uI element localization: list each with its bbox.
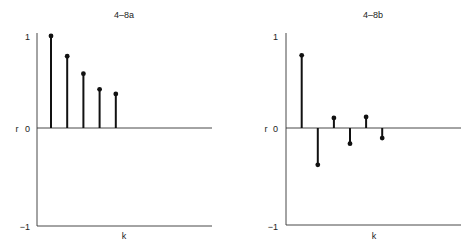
y-tick-0: 0 — [273, 124, 278, 134]
y-tick-1: 1 — [273, 32, 278, 42]
stem-marker — [81, 71, 86, 76]
y-axis-label: r — [16, 124, 19, 134]
x-axis-label: k — [122, 231, 127, 241]
y-tick-0: 0 — [25, 124, 30, 134]
stem-series — [299, 53, 384, 167]
stem-series — [49, 34, 119, 128]
stem-marker — [49, 34, 54, 39]
y-axis-label: r — [265, 124, 268, 134]
chart-title: 4–8a — [114, 10, 134, 20]
y-tick-1: 1 — [25, 32, 30, 42]
stem-marker — [380, 136, 385, 141]
chart-4-8a: 4–8a 1 r 0 −1 k — [16, 10, 213, 241]
chart-title: 4–8b — [363, 10, 383, 20]
stem-marker — [332, 115, 337, 120]
figure: 4–8a 1 r 0 −1 k 4–8b 1 r 0 −1 k — [0, 0, 473, 251]
chart-4-8b: 4–8b 1 r 0 −1 k — [265, 10, 462, 241]
stem-marker — [97, 87, 102, 92]
stem-marker — [113, 92, 118, 97]
stem-marker — [299, 53, 304, 58]
y-tick-neg1: −1 — [20, 222, 30, 232]
stem-marker — [315, 162, 320, 167]
x-axis-label: k — [372, 231, 377, 241]
stem-marker — [364, 115, 369, 120]
y-tick-neg1: −1 — [268, 222, 278, 232]
stem-marker — [65, 54, 70, 59]
stem-marker — [348, 141, 353, 146]
